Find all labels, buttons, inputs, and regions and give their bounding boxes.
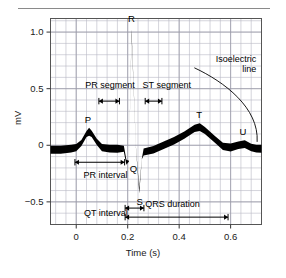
annotation-qt-interval: QT interval — [84, 208, 128, 218]
wave-label-t: T — [189, 109, 209, 120]
x-axis-title: Time (s) — [0, 247, 286, 258]
x-tick-label: 0.6 — [211, 231, 251, 242]
ecg-figure: mV Time (s) 1.00.50−0.500.20.40.6 PQRSTU… — [0, 0, 286, 278]
y-tick-label: 0.5 — [0, 83, 44, 94]
x-tick-label: 0.4 — [159, 231, 199, 242]
annotation-st-segment: ST segment — [143, 80, 191, 90]
y-tick-label: 1.0 — [0, 26, 44, 37]
y-axis-title: mV — [12, 111, 23, 125]
annotation-isoelectric-line: Isoelectricline — [194, 54, 256, 74]
wave-label-p: P — [78, 114, 98, 125]
annotation-qrs-duration: QRS duration — [145, 199, 200, 209]
annotation-pr-interval: PR interval — [83, 170, 127, 180]
annotation-isoelectric-line-line2: line — [194, 64, 256, 74]
x-tick-label: 0.2 — [108, 231, 148, 242]
annotation-isoelectric-line-line1: Isoelectric — [194, 54, 256, 64]
wave-label-u: U — [233, 126, 253, 137]
annotation-pr-segment: PR segment — [85, 80, 135, 90]
x-tick-label: 0 — [56, 231, 96, 242]
y-tick-label: −0.5 — [0, 196, 44, 207]
y-tick-label: 0 — [0, 139, 44, 150]
wave-label-r: R — [122, 13, 142, 24]
